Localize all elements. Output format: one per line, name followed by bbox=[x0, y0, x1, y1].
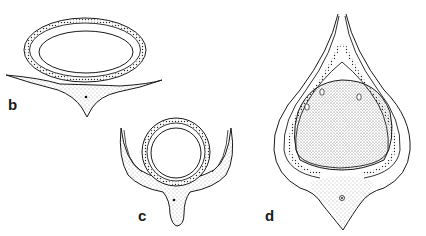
panel-label-d: d bbox=[265, 208, 274, 223]
botanical-figure: b c d bbox=[0, 0, 426, 236]
panel-d-drawing bbox=[274, 14, 410, 230]
panel-label-b: b bbox=[8, 97, 17, 112]
figure-drawing bbox=[0, 0, 426, 236]
panel-b-drawing bbox=[6, 18, 162, 117]
panel-label-c: c bbox=[138, 208, 146, 223]
